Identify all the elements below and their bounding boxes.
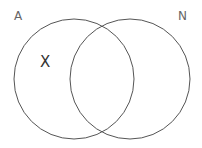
venn-diagram: A N X: [0, 0, 202, 148]
set-n-circle: [70, 19, 190, 139]
x-marker: X: [40, 53, 50, 71]
set-a-circle: [14, 19, 134, 139]
set-n-label: N: [178, 9, 187, 23]
set-a-label: A: [14, 9, 23, 23]
